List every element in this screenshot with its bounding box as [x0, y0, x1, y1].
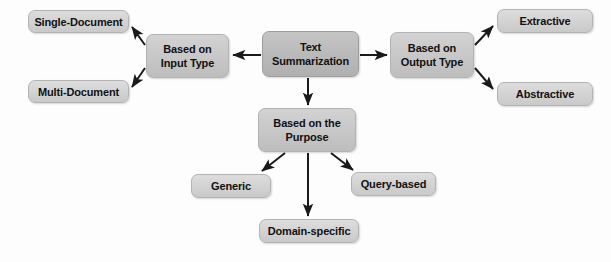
node-label-query-based: Query-based [358, 177, 430, 191]
edge-purpose-to-query-based [331, 153, 353, 170]
node-label-based-on-output-type: Based on Output Type [398, 41, 466, 69]
edge-input-type-to-multi-document [132, 68, 145, 87]
node-extractive[interactable]: Extractive [497, 9, 593, 33]
edge-output-type-to-abstractive [475, 68, 493, 89]
node-label-single-document: Single-Document [31, 15, 125, 29]
node-query-based[interactable]: Query-based [351, 172, 436, 196]
node-based-on-the-purpose[interactable]: Based on the Purpose [258, 108, 356, 152]
edge-input-type-to-single-document [132, 27, 145, 45]
diagram-canvas: Text SummarizationBased on Input TypeBas… [0, 0, 611, 262]
node-text-summarization[interactable]: Text Summarization [262, 31, 359, 77]
node-label-extractive: Extractive [516, 14, 573, 28]
node-label-based-on-input-type: Based on Input Type [158, 42, 217, 70]
node-based-on-output-type[interactable]: Based on Output Type [390, 32, 474, 78]
node-label-text-summarization: Text Summarization [269, 40, 352, 68]
node-label-multi-document: Multi-Document [35, 85, 122, 99]
node-domain-specific[interactable]: Domain-specific [259, 219, 359, 243]
node-label-domain-specific: Domain-specific [265, 224, 354, 238]
edge-purpose-to-generic [262, 153, 285, 171]
node-label-based-on-the-purpose: Based on the Purpose [270, 116, 343, 144]
node-based-on-input-type[interactable]: Based on Input Type [146, 34, 229, 78]
node-label-abstractive: Abstractive [513, 87, 577, 101]
node-abstractive[interactable]: Abstractive [497, 82, 593, 106]
node-generic[interactable]: Generic [191, 174, 271, 198]
node-label-generic: Generic [208, 179, 254, 193]
node-single-document[interactable]: Single-Document [28, 10, 129, 33]
node-multi-document[interactable]: Multi-Document [28, 80, 129, 103]
edge-output-type-to-extractive [475, 26, 493, 45]
